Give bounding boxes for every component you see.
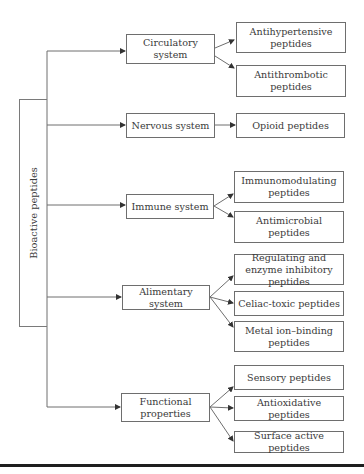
category-circulatory-system: Circulatory system [126, 34, 215, 64]
category-nervous-system: Nervous system [126, 113, 215, 138]
root-label: Bioactive peptides [28, 167, 39, 259]
leaf-opioid-peptides: Opioid peptides [236, 113, 345, 138]
leaf-antimicrobial-peptides: Antimicrobial peptides [234, 211, 344, 243]
leaf-surface-active-peptides: Surface active peptides [234, 431, 344, 453]
category-functional-properties: Functional properties [121, 393, 210, 422]
category-alimentary-system: Alimentary system [122, 285, 210, 310]
leaf-antithrombotic-peptides: Antithrombotic peptides [236, 65, 346, 97]
leaf-antioxidative-peptides: Antioxidative peptides [234, 396, 344, 421]
leaf-regulating-enzyme-inhibitory-peptides: Regulating and enzyme inhibitory peptide… [234, 254, 344, 285]
leaf-metal-ion-binding-peptides: Metal ion–binding peptides [234, 321, 344, 352]
bottom-rule [0, 464, 364, 467]
leaf-antihypertensive-peptides: Antihypertensive peptides [236, 22, 346, 53]
category-immune-system: Immune system [126, 194, 214, 219]
leaf-sensory-peptides: Sensory peptides [234, 365, 344, 390]
leaf-celiac-toxic-peptides: Celiac-toxic peptides [234, 291, 344, 316]
leaf-immunomodulating-peptides: Immunomodulating peptides [234, 171, 344, 203]
